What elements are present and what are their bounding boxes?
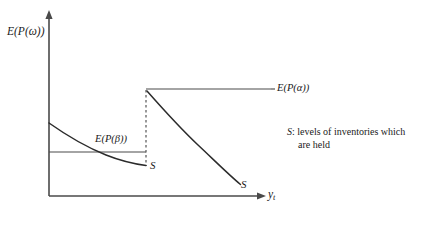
y-axis-label: E(P(ω))	[7, 25, 45, 38]
s-marker-label-1: S	[150, 159, 156, 172]
chart-canvas	[0, 0, 431, 226]
legend-description: levels of inventories which are held	[297, 126, 405, 150]
alpha-level-label: E(P(α))	[277, 82, 309, 94]
x-axis-label-subscript: t	[273, 193, 275, 202]
x-axis-arrowhead	[257, 193, 266, 200]
s-marker-label-2: S	[241, 178, 247, 191]
expected-price-inventory-chart: E(P(ω)) yt E(P(β)) E(P(α)) S S S: levels…	[0, 0, 431, 226]
y-axis-arrowhead	[45, 10, 52, 19]
beta-level-label: E(P(β))	[95, 133, 127, 145]
legend-note: S: levels of inventories which are held	[287, 126, 419, 152]
x-axis-label: yt	[268, 188, 275, 203]
decay-curve-branch-2	[147, 91, 241, 185]
